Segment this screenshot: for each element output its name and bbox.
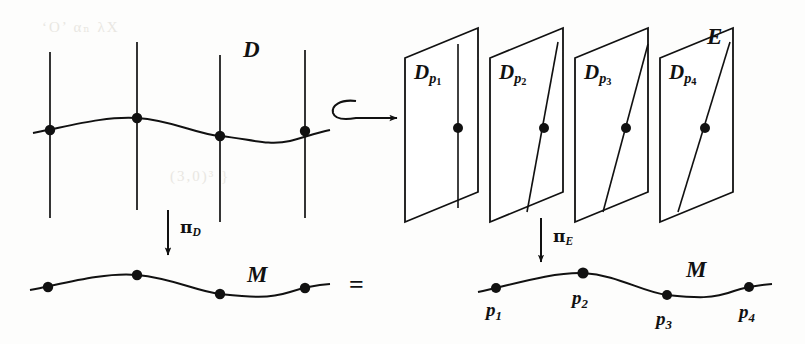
section-dot-3 — [215, 131, 225, 141]
base-dot-2 — [132, 270, 142, 280]
base-dot-4 — [300, 283, 310, 293]
plane-Dp4 — [660, 28, 733, 222]
label-base-point-p2-base: p — [572, 287, 582, 308]
inclusion-arrow-group — [333, 101, 397, 119]
label-plane-Dp4-sub-idx: 4 — [691, 76, 696, 87]
label-plane-Dp2-sub: p2 — [514, 70, 526, 86]
label-plane-Dp3-base: D — [584, 60, 599, 84]
plane-Dp2-dot — [539, 123, 549, 133]
plane-Dp2-outline — [490, 28, 563, 222]
plane-Dp3 — [575, 28, 648, 222]
label-base-point-p4-idx: 4 — [749, 310, 755, 325]
label-base-point-p3-idx: 3 — [666, 317, 672, 332]
label-base-point-p4: p4 — [739, 302, 755, 325]
plane-Dp1-dot — [453, 123, 463, 133]
section-dot-4 — [300, 126, 310, 136]
pi-subscript-right: E — [565, 235, 573, 248]
figure-canvas: ‘O’ αₙ λX (3,0)³ } — [0, 0, 805, 344]
label-plane-Dp4: Dp4 — [669, 62, 696, 88]
base-dot-1 — [43, 282, 53, 292]
plane-Dp2 — [490, 28, 563, 222]
plane-Dp1-outline — [405, 28, 478, 222]
label-total-space-E: E — [707, 25, 722, 48]
plane-Dp3-dot — [621, 123, 631, 133]
label-plane-Dp1-sub-idx: 1 — [436, 76, 441, 87]
label-plane-Dp1-sub: p1 — [429, 70, 441, 86]
plane-Dp1 — [405, 28, 478, 222]
pi-glyph-right: π — [553, 226, 565, 246]
base-dot-p4 — [744, 282, 754, 292]
label-base-space-M-right: M — [686, 258, 706, 281]
section-dot-2 — [132, 113, 142, 123]
label-plane-Dp2: Dp2 — [499, 62, 526, 88]
label-base-point-p4-base: p — [739, 301, 749, 322]
pi-subscript-left: D — [192, 226, 200, 239]
label-total-space-D: D — [243, 38, 260, 61]
plane-Dp4-outline — [660, 28, 733, 222]
label-plane-Dp3-sub: p3 — [599, 70, 611, 86]
label-base-point-p2-idx: 2 — [582, 296, 588, 311]
section-curve-D — [33, 118, 330, 143]
base-dot-p1 — [491, 283, 501, 293]
label-base-point-p1-idx: 1 — [496, 308, 502, 323]
inclusion-arrow — [333, 101, 397, 119]
base-dot-3 — [215, 289, 225, 299]
label-base-point-p1-base: p — [486, 299, 496, 320]
label-plane-Dp4-sub: p4 — [684, 70, 696, 86]
base-dot-p3 — [662, 290, 672, 300]
section-dot-1 — [45, 125, 55, 135]
left-bundle-group — [30, 42, 330, 299]
label-base-space-M-left: M — [247, 263, 267, 286]
plane-Dp4-dot — [700, 123, 710, 133]
label-projection-pi-D: πD — [180, 219, 201, 239]
base-curve-M-left — [30, 275, 330, 297]
base-dot-p2 — [577, 267, 588, 278]
label-base-point-p3-base: p — [656, 308, 666, 329]
label-plane-Dp3-sub-idx: 3 — [606, 76, 611, 87]
plane-Dp3-outline — [575, 28, 648, 222]
label-base-point-p2: p2 — [572, 288, 588, 311]
label-base-point-p3: p3 — [656, 309, 672, 332]
label-base-point-p1: p1 — [486, 300, 502, 323]
base-curve-M-right — [478, 273, 772, 297]
pi-glyph-left: π — [180, 217, 192, 237]
label-plane-Dp2-base: D — [499, 60, 514, 84]
label-equals: = — [349, 272, 364, 298]
label-plane-Dp3: Dp3 — [584, 62, 611, 88]
diagram-vector-layer — [0, 0, 805, 344]
label-plane-Dp1: Dp1 — [414, 62, 441, 88]
label-plane-Dp2-sub-idx: 2 — [521, 76, 526, 87]
label-plane-Dp1-base: D — [414, 60, 429, 84]
label-plane-Dp4-base: D — [669, 60, 684, 84]
label-projection-pi-E: πE — [553, 228, 573, 248]
